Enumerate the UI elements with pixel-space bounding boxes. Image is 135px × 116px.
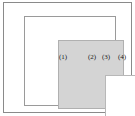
region-4-outer-frame <box>3 2 132 113</box>
region-2-gray-square <box>58 40 124 109</box>
region-3-middle-square <box>24 16 116 106</box>
region-3-label: (3) <box>102 54 110 61</box>
region-4-label: (4) <box>118 54 126 61</box>
region-1-inner-square <box>105 75 135 116</box>
region-2-label: (2) <box>88 54 96 61</box>
region-1-label: (1) <box>59 54 67 61</box>
nested-squares-figure: (1) (2) (3) (4) <box>0 0 135 116</box>
